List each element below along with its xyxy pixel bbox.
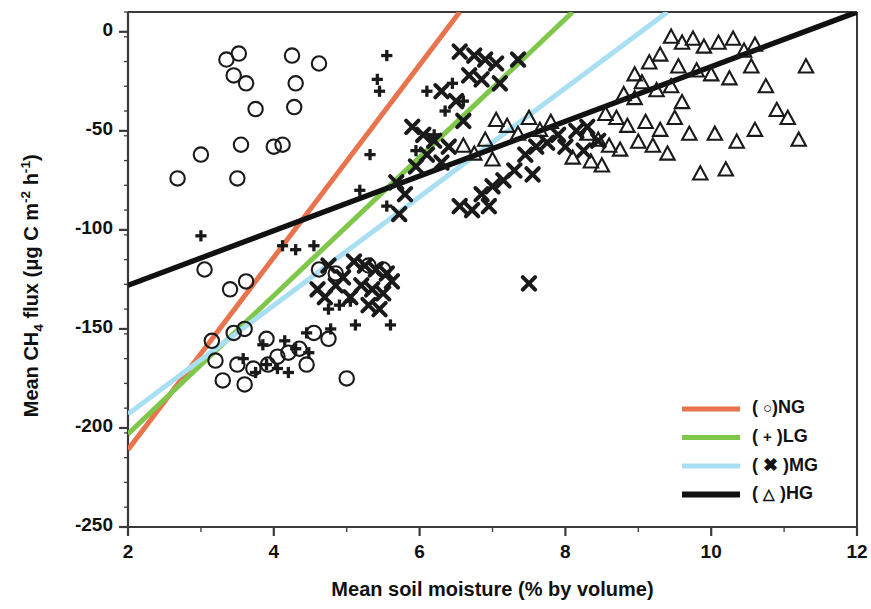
data-point-ng xyxy=(239,274,253,288)
data-point-hg xyxy=(748,123,762,136)
legend-paren-open: ( xyxy=(752,483,763,503)
data-point-lg xyxy=(323,304,334,315)
data-point-hg xyxy=(726,32,740,45)
legend-item-lg[interactable]: ( + )LG xyxy=(752,426,808,447)
data-point-ng xyxy=(239,76,253,90)
data-point-lg xyxy=(283,367,294,378)
chart-figure: Mean CH4 flux (μg C m-2 h-1) Mean soil m… xyxy=(0,0,871,609)
data-point-hg xyxy=(682,127,696,140)
data-point-hg xyxy=(799,59,813,72)
data-point-ng xyxy=(230,171,244,185)
y-axis-tick-label: -200 xyxy=(51,415,113,437)
legend-series-name: )HG xyxy=(775,483,813,503)
data-point-hg xyxy=(759,79,773,92)
data-point-lg xyxy=(374,86,385,97)
data-point-lg xyxy=(421,86,432,97)
data-point-hg xyxy=(671,59,685,72)
data-point-lg xyxy=(372,74,383,85)
data-point-hg xyxy=(711,36,725,49)
data-point-hg xyxy=(664,30,678,43)
data-point-hg xyxy=(693,166,707,179)
data-point-hg xyxy=(653,123,667,136)
legend-marker-circle-icon: ○ xyxy=(763,399,772,416)
data-point-hg xyxy=(719,162,733,175)
data-point-ng xyxy=(288,76,302,90)
data-point-hg xyxy=(708,127,722,140)
y-axis-title-sup2: -1 xyxy=(18,161,33,173)
x-axis-tick-label: 10 xyxy=(691,541,731,563)
data-point-ng xyxy=(208,353,222,367)
x-axis-tick-label: 4 xyxy=(254,541,294,563)
data-point-mg xyxy=(577,144,589,156)
series-points-mg xyxy=(311,45,604,315)
data-point-hg xyxy=(635,75,649,88)
data-point-hg xyxy=(668,111,682,124)
data-point-ng xyxy=(170,171,184,185)
data-point-mg xyxy=(466,204,478,216)
data-point-ng xyxy=(232,46,246,60)
data-point-lg xyxy=(350,319,361,330)
y-axis-title-post: ) xyxy=(20,154,42,161)
data-point-hg xyxy=(730,135,744,148)
data-point-hg xyxy=(653,47,667,60)
data-point-ng xyxy=(248,102,262,116)
legend-item-mg[interactable]: ( ✖ )MG xyxy=(752,454,818,476)
data-point-hg xyxy=(660,146,674,159)
data-point-hg xyxy=(722,71,736,84)
y-axis-title-sup1: -2 xyxy=(18,191,33,203)
data-point-lg xyxy=(272,363,283,374)
legend-marker-cross-icon: ✖ xyxy=(763,455,778,475)
data-point-hg xyxy=(485,152,499,165)
data-point-hg xyxy=(489,113,503,126)
legend-paren-open: ( xyxy=(752,455,763,475)
y-axis-title: Mean CH4 flux (μg C m-2 h-1) xyxy=(18,86,46,486)
data-point-mg xyxy=(475,73,487,85)
legend-item-hg[interactable]: ( △ )HG xyxy=(752,483,813,504)
x-axis-tick-label: 2 xyxy=(108,541,148,563)
y-axis-tick-label: -250 xyxy=(51,514,113,536)
data-point-lg xyxy=(364,149,375,160)
data-point-ng xyxy=(223,282,237,296)
y-axis-title-mid2: h xyxy=(20,173,42,191)
data-points-layer xyxy=(170,30,813,392)
data-point-lg xyxy=(381,50,392,61)
data-point-mg xyxy=(399,188,411,200)
y-axis-tick-label: -100 xyxy=(51,217,113,239)
legend-layer xyxy=(682,409,740,495)
legend-series-name: )LG xyxy=(772,426,808,446)
data-point-hg xyxy=(791,133,805,146)
data-point-ng xyxy=(237,377,251,391)
data-point-lg xyxy=(381,201,392,212)
legend-item-ng[interactable]: ( ○)NG xyxy=(752,397,805,418)
data-point-lg xyxy=(385,319,396,330)
data-point-hg xyxy=(478,133,492,146)
data-point-ng xyxy=(321,332,335,346)
legend-marker-plus-icon: + xyxy=(763,428,772,445)
data-point-lg xyxy=(290,343,301,354)
data-point-ng xyxy=(216,373,230,387)
data-point-mg xyxy=(453,200,465,212)
data-point-mg xyxy=(435,85,447,97)
data-point-ng xyxy=(197,262,211,276)
data-point-lg xyxy=(308,240,319,251)
data-point-hg xyxy=(638,115,652,128)
data-point-hg xyxy=(675,95,689,108)
data-point-lg xyxy=(195,230,206,241)
legend-series-name: )MG xyxy=(778,455,818,475)
data-point-hg xyxy=(744,59,758,72)
y-axis-tick-label: -150 xyxy=(51,316,113,338)
data-point-hg xyxy=(631,135,645,148)
data-point-mg xyxy=(319,291,331,303)
data-point-mg xyxy=(526,168,538,180)
x-axis-tick-label: 6 xyxy=(400,541,440,563)
y-axis-title-mid: flux (μg C m xyxy=(20,203,42,324)
data-point-ng xyxy=(275,138,289,152)
legend-series-name: )NG xyxy=(772,397,805,417)
x-axis-tick-label: 12 xyxy=(837,541,871,563)
data-point-ng xyxy=(234,138,248,152)
data-point-ng xyxy=(287,100,301,114)
series-points-hg xyxy=(456,30,813,180)
y-axis-tick-label: -50 xyxy=(51,118,113,140)
legend-paren-open: ( xyxy=(752,426,763,446)
data-point-hg xyxy=(646,139,660,152)
